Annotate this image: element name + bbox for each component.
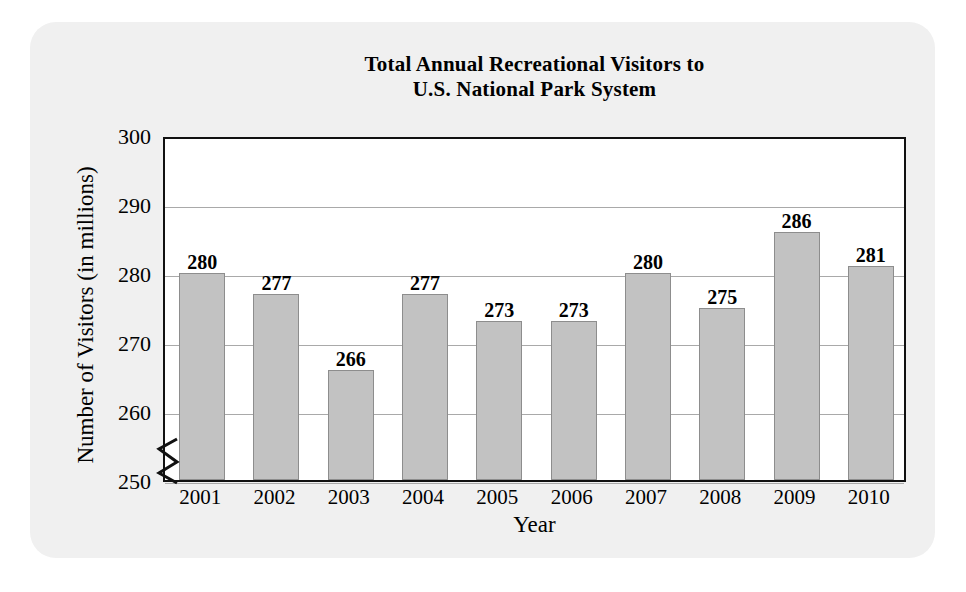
bar [253, 294, 299, 480]
bar-value-label: 273 [462, 300, 536, 320]
bar-value-label: 277 [239, 273, 313, 293]
bar-value-label: 266 [314, 349, 388, 369]
bar-value-label: 281 [834, 245, 908, 265]
y-tick-label: 270 [91, 333, 151, 355]
x-tick-label: 2001 [163, 487, 237, 508]
gridline [165, 483, 904, 484]
bar-value-label: 286 [759, 211, 833, 231]
chart-title-line-1: Total Annual Recreational Visitors to [163, 52, 906, 77]
bar [774, 232, 820, 480]
bar-value-label: 277 [388, 273, 462, 293]
bar-value-label: 275 [685, 287, 759, 307]
y-tick-label: 280 [91, 264, 151, 286]
bar [699, 308, 745, 481]
bar-value-label: 273 [537, 300, 611, 320]
chart-title: Total Annual Recreational Visitors to U.… [163, 52, 906, 102]
bar [476, 321, 522, 480]
axis-break-icon [147, 437, 181, 487]
bar [551, 321, 597, 480]
x-axis-title: Year [163, 512, 906, 538]
x-tick-label: 2008 [683, 487, 757, 508]
x-tick-label: 2004 [386, 487, 460, 508]
x-tick-label: 2003 [312, 487, 386, 508]
x-tick-label: 2007 [609, 487, 683, 508]
bar-value-label: 280 [165, 252, 239, 272]
bar [848, 266, 894, 480]
plot-area: 280277266277273273280275286281 [163, 137, 906, 482]
y-tick-label: 250 [91, 471, 151, 493]
x-tick-label: 2005 [460, 487, 534, 508]
y-tick-label: 290 [91, 195, 151, 217]
x-tick-label: 2010 [832, 487, 906, 508]
bars-layer: 280277266277273273280275286281 [165, 139, 904, 480]
y-tick-label: 260 [91, 402, 151, 424]
chart-title-line-2: U.S. National Park System [163, 77, 906, 102]
bar-value-label: 280 [611, 252, 685, 272]
x-tick-label: 2002 [237, 487, 311, 508]
bar [625, 273, 671, 480]
x-tick-label: 2009 [757, 487, 831, 508]
y-tick-label: 300 [91, 126, 151, 148]
bar [328, 370, 374, 480]
bar [402, 294, 448, 480]
x-tick-label: 2006 [535, 487, 609, 508]
bar [179, 273, 225, 480]
